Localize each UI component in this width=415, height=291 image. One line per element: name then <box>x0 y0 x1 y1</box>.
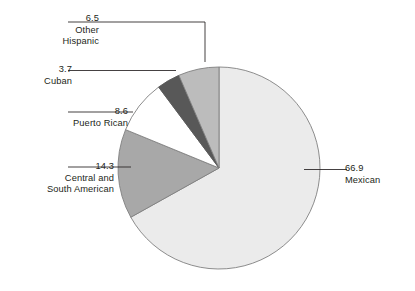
callout-value-central-south-american: 14.3 <box>47 161 114 173</box>
callout-name-central-south-american-line1: Central and <box>47 173 114 185</box>
callout-central-south-american: 14.3 Central and South American <box>47 161 114 196</box>
callout-name-puerto-rican: Puerto Rican <box>73 118 128 130</box>
pie-chart: 6.5 Other Hispanic 3.7 Cuban 8.6 Puerto … <box>0 0 415 291</box>
callout-value-cuban: 3.7 <box>44 64 72 76</box>
callout-value-puerto-rican: 8.6 <box>73 106 128 118</box>
callout-mexican: 66.9 Mexican <box>345 163 380 186</box>
callout-name-other-hispanic-line2: Hispanic <box>63 36 99 48</box>
callout-name-mexican: Mexican <box>345 175 380 187</box>
callout-value-mexican: 66.9 <box>345 163 380 175</box>
callout-other-hispanic: 6.5 Other Hispanic <box>63 13 99 48</box>
callout-value-other-hispanic: 6.5 <box>63 13 99 25</box>
callout-puerto-rican: 8.6 Puerto Rican <box>73 106 128 129</box>
callout-cuban: 3.7 Cuban <box>44 64 72 87</box>
callout-name-other-hispanic-line1: Other <box>63 25 99 37</box>
callout-name-cuban: Cuban <box>44 76 72 88</box>
callout-name-central-south-american-line2: South American <box>47 184 114 196</box>
pie-slices <box>118 67 320 269</box>
